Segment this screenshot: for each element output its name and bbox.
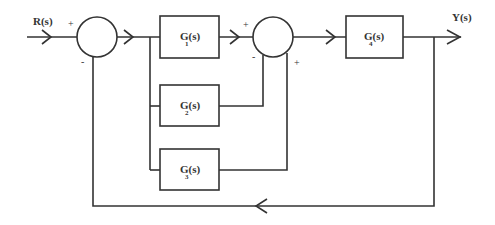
block-g2-subscript: 2 [185,109,189,117]
block-g2-label: G(s) [180,99,201,112]
block-g4-subscript: 4 [369,40,373,48]
block-g1-label: G(s) [180,30,201,43]
summing-junction-1 [77,17,117,57]
output-label: Y(s) [452,11,472,24]
sum1-plus-sign: + [68,18,74,29]
block-g1-subscript: 1 [185,40,189,48]
block-g3-subscript: 3 [185,173,189,181]
sum2-minus-sign: - [252,51,255,62]
g3-output-line [219,53,287,170]
sum1-minus-sign: - [81,56,84,67]
sum2-plus-sign-left: + [243,19,249,30]
block-diagram: R(s) + - G(s) 1 G(s) 2 G(s) 3 + - + G(s)… [0,0,495,225]
sum2-plus-sign-bottom: + [294,57,300,68]
block-g3-label: G(s) [180,163,201,176]
block-g4-label: G(s) [364,30,385,43]
input-label: R(s) [33,15,53,28]
summing-junction-2 [253,17,293,57]
g2-output-line [219,55,263,106]
